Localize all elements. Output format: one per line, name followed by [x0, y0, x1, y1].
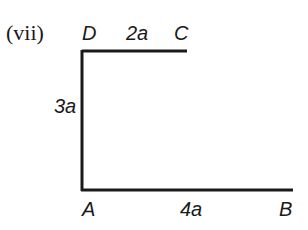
figure-number: (vii)	[6, 20, 44, 45]
frame-diagram: (vii) D 2a C 3a A 4a B	[0, 0, 308, 230]
segment-dc-length-label: 2a	[125, 22, 148, 44]
segment-ab-length-label: 4a	[180, 198, 202, 220]
point-a-label: A	[81, 198, 95, 220]
point-c-label: C	[174, 22, 189, 44]
segment-da-length-label: 3a	[54, 95, 76, 117]
point-d-label: D	[82, 22, 96, 44]
point-b-label: B	[279, 198, 292, 220]
